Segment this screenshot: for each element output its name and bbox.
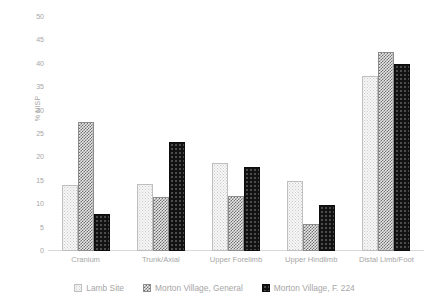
y-axis-tick-10: 10 bbox=[22, 200, 44, 208]
y-axis-tick-40: 40 bbox=[22, 60, 44, 68]
bar-distal-limb-foot-series-2[interactable] bbox=[394, 64, 410, 251]
bar-cranium-series-0[interactable] bbox=[62, 185, 78, 251]
y-axis-tick-30: 30 bbox=[22, 107, 44, 115]
bar-upper-hindlimb-series-1[interactable] bbox=[303, 224, 319, 251]
y-axis-tick-0: 0 bbox=[22, 247, 44, 255]
bar-upper-hindlimb-series-0[interactable] bbox=[287, 181, 303, 251]
chart-legend: Lamb SiteMorton Village, GeneralMorton V… bbox=[0, 283, 429, 293]
bar-upper-hindlimb-series-2[interactable] bbox=[319, 205, 335, 251]
bar-group-cranium bbox=[48, 17, 123, 251]
legend-item-0[interactable]: Lamb Site bbox=[74, 283, 124, 293]
legend-swatch-icon-0 bbox=[74, 284, 82, 292]
bar-trunk-axial-series-0[interactable] bbox=[137, 184, 153, 251]
bar-upper-forelimb-series-0[interactable] bbox=[212, 163, 228, 251]
x-axis-label-upper-forelimb: Upper Forelimb bbox=[198, 255, 273, 264]
x-axis-label-upper-hindlimb: Upper Hindlimb bbox=[274, 255, 349, 264]
bar-group-upper-hindlimb bbox=[274, 17, 349, 251]
bar-trunk-axial-series-1[interactable] bbox=[153, 197, 169, 251]
bar-group-upper-forelimb bbox=[198, 17, 273, 251]
legend-item-2[interactable]: Morton Village, F. 224 bbox=[262, 283, 355, 293]
bar-chart: % NISP 50454035302520151050 CraniumTrunk… bbox=[0, 0, 429, 307]
bar-cranium-series-1[interactable] bbox=[78, 122, 94, 251]
legend-label-1: Morton Village, General bbox=[155, 283, 243, 293]
legend-label-0: Lamb Site bbox=[86, 283, 124, 293]
legend-item-1[interactable]: Morton Village, General bbox=[143, 283, 243, 293]
y-axis-tick-15: 15 bbox=[22, 177, 44, 185]
bar-group-distal-limb-foot bbox=[349, 17, 424, 251]
bar-trunk-axial-series-2[interactable] bbox=[169, 142, 185, 251]
legend-swatch-icon-2 bbox=[262, 284, 270, 292]
bar-distal-limb-foot-series-1[interactable] bbox=[378, 52, 394, 251]
bar-cranium-series-2[interactable] bbox=[94, 214, 110, 251]
y-axis-tick-25: 25 bbox=[22, 130, 44, 138]
bar-distal-limb-foot-series-0[interactable] bbox=[362, 76, 378, 252]
y-axis-tick-20: 20 bbox=[22, 153, 44, 161]
y-axis-tick-5: 5 bbox=[22, 224, 44, 232]
legend-swatch-icon-1 bbox=[143, 284, 151, 292]
y-axis-tick-35: 35 bbox=[22, 83, 44, 91]
x-axis-label-distal-limb-foot: Distal Limb/Foot bbox=[349, 255, 424, 264]
bar-group-trunk-axial bbox=[123, 17, 198, 251]
bar-upper-forelimb-series-2[interactable] bbox=[244, 167, 260, 251]
x-axis-category-labels: CraniumTrunk/AxialUpper ForelimbUpper Hi… bbox=[48, 255, 424, 271]
y-axis-tick-labels: 50454035302520151050 bbox=[22, 0, 44, 307]
y-axis-tick-45: 45 bbox=[22, 36, 44, 44]
y-axis-tick-50: 50 bbox=[22, 13, 44, 21]
plot-area bbox=[48, 17, 424, 251]
legend-label-2: Morton Village, F. 224 bbox=[274, 283, 355, 293]
bar-upper-forelimb-series-1[interactable] bbox=[228, 196, 244, 251]
x-axis-label-cranium: Cranium bbox=[48, 255, 123, 264]
x-axis-label-trunk-axial: Trunk/Axial bbox=[123, 255, 198, 264]
